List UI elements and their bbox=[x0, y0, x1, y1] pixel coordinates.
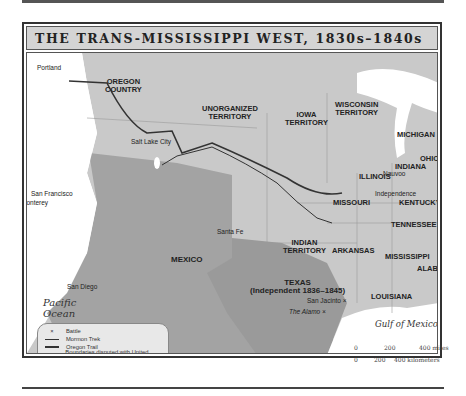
region-mississippi: MISSISSIPPI bbox=[385, 253, 430, 261]
legend-battle: ×Battle bbox=[44, 327, 162, 335]
pacific-ocean-label: PacificOcean bbox=[43, 297, 76, 319]
map-title: THE TRANS-MISSISSIPPI WEST, 1830s–1840s bbox=[35, 31, 423, 46]
region-texas: TEXAS(Independent 1836–1845) bbox=[250, 279, 345, 295]
city-santa-fe: Santa Fe bbox=[217, 228, 243, 235]
map-graphic bbox=[27, 53, 438, 354]
battle-the-alamo: The Alamo × bbox=[289, 308, 326, 315]
region-wisconsin-territory: WISCONSINTERRITORY bbox=[335, 101, 378, 117]
region-missouri: MISSOURI bbox=[333, 199, 370, 207]
scale-km-200: 200 bbox=[374, 356, 385, 363]
city-salt-lake-city: Salt Lake City bbox=[131, 138, 171, 145]
map-legend: ×Battle Mormon Trek Oregon Trail Boundar… bbox=[37, 323, 169, 354]
region-kentucky: KENTUCKY bbox=[399, 199, 438, 207]
city-nauvoo: Nauvoo bbox=[383, 170, 405, 177]
top-rule bbox=[22, 0, 444, 3]
region-mexico: MEXICO bbox=[171, 256, 203, 264]
city-independence: Independence bbox=[375, 190, 416, 197]
city-san-francisco: San Francisco bbox=[31, 190, 73, 197]
legend-mormon-trek: Mormon Trek bbox=[44, 335, 162, 343]
gulf-of-mexico-label: Gulf of Mexico bbox=[375, 319, 438, 329]
map-frame: THE TRANS-MISSISSIPPI WEST, 1830s–1840s bbox=[22, 22, 442, 358]
battle-san-jacinto: San Jacinto × bbox=[307, 297, 347, 304]
city-san-diego: San Diego bbox=[67, 283, 97, 290]
great-salt-lake bbox=[154, 157, 160, 169]
title-bar: THE TRANS-MISSISSIPPI WEST, 1830s–1840s bbox=[26, 26, 438, 50]
battle-icon: × bbox=[44, 328, 60, 334]
mormon-trek-line-icon bbox=[44, 339, 60, 340]
city-portland: Portland bbox=[37, 64, 61, 71]
region-arkansas: ARKANSAS bbox=[332, 247, 375, 255]
scale-line bbox=[356, 353, 434, 354]
scale-miles-400: 400 miles bbox=[419, 344, 449, 351]
region-tennessee: TENNESSEE bbox=[391, 221, 436, 229]
scale-km-400: 400 kilometers bbox=[394, 356, 440, 363]
region-michigan: MICHIGAN bbox=[397, 131, 435, 139]
region-indian-territory: INDIANTERRITORY bbox=[283, 239, 326, 255]
region-iowa-territory: IOWATERRITORY bbox=[285, 111, 328, 127]
region-alabama: ALABAMA bbox=[417, 265, 438, 273]
map-area: OREGONCOUNTRY UNORGANIZEDTERRITORY IOWAT… bbox=[26, 52, 438, 354]
legend-disputed-boundaries: Boundaries disputed with United States bbox=[44, 351, 162, 354]
oregon-trail-line-icon bbox=[44, 346, 60, 348]
scale-miles-200: 200 bbox=[384, 344, 395, 351]
bottom-rule bbox=[22, 387, 444, 389]
region-unorganized-territory: UNORGANIZEDTERRITORY bbox=[202, 105, 258, 121]
city-monterey: Monterey bbox=[26, 199, 48, 206]
region-oregon-country: OREGONCOUNTRY bbox=[105, 78, 142, 94]
scale-bar: 0 200 400 miles 0 200 400 kilometers bbox=[354, 344, 454, 370]
scale-km-0: 0 bbox=[354, 356, 358, 363]
scale-miles-0: 0 bbox=[354, 344, 358, 351]
region-louisiana: LOUISIANA bbox=[371, 293, 412, 301]
